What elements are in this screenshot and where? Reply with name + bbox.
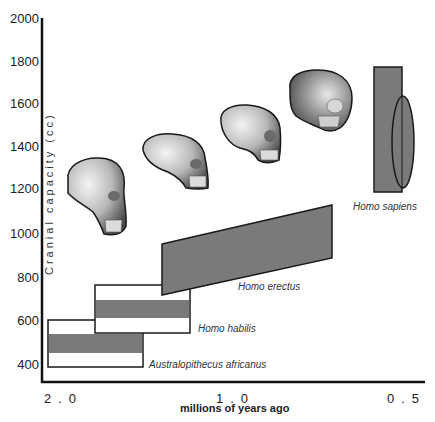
label-homo-habilis: Homo habilis	[198, 323, 256, 334]
y-tick-800: 800	[17, 270, 39, 285]
label-australopithecus: Australopithecus africanus	[148, 359, 266, 370]
cranial-capacity-chart: 2000 1800 1600 1400 1200 1000 800 600 40…	[0, 0, 435, 422]
x-tick-0-5: 0.5	[387, 391, 426, 406]
skull-icon-homo-sapiens	[290, 70, 352, 131]
y-tick-2000: 2000	[10, 11, 39, 26]
y-tick-400: 400	[17, 357, 39, 372]
skull-icon-australopithecus	[68, 158, 126, 235]
homo-sapiens-range	[374, 67, 414, 192]
y-axis-title: Cranial capacity (cc)	[43, 112, 55, 275]
label-homo-sapiens: Homo sapiens	[353, 201, 417, 212]
skull-icon-homo-habilis	[143, 134, 208, 189]
y-tick-1000: 1000	[10, 226, 39, 241]
y-tick-600: 600	[17, 313, 39, 328]
y-tick-1400: 1400	[10, 139, 39, 154]
y-tick-1800: 1800	[10, 54, 39, 69]
y-tick-1200: 1200	[10, 181, 39, 196]
y-tick-1600: 1600	[10, 96, 39, 111]
x-axis-title: millions of years ago	[180, 402, 290, 414]
x-tick-2-0: 2.0	[44, 391, 83, 406]
skull-icon-homo-erectus	[221, 105, 281, 163]
label-homo-erectus: Homo erectus	[238, 281, 300, 292]
